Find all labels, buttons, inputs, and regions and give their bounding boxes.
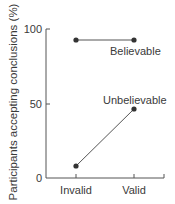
y-tick-100: 100 (24, 23, 42, 35)
chart: Participants accepting conclusions (%) 1… (0, 0, 175, 204)
point-believable-valid (131, 37, 136, 42)
point-believable-invalid (73, 37, 78, 42)
y-tick-0: 0 (36, 172, 42, 184)
x-axis: Invalid Valid (46, 174, 164, 196)
series-unbelievable: Unbelievable (73, 94, 166, 169)
y-axis: 100 50 0 (24, 23, 50, 184)
point-unbelievable-valid (131, 106, 136, 111)
x-tick-invalid: Invalid (60, 184, 92, 196)
y-axis-title: Participants accepting conclusions (%) (7, 3, 19, 200)
label-unbelievable: Unbelievable (103, 94, 167, 106)
x-tick-valid: Valid (122, 184, 146, 196)
y-tick-50: 50 (30, 98, 42, 110)
series-believable: Believable (73, 37, 160, 57)
label-believable: Believable (110, 45, 161, 57)
point-unbelievable-invalid (73, 163, 78, 168)
